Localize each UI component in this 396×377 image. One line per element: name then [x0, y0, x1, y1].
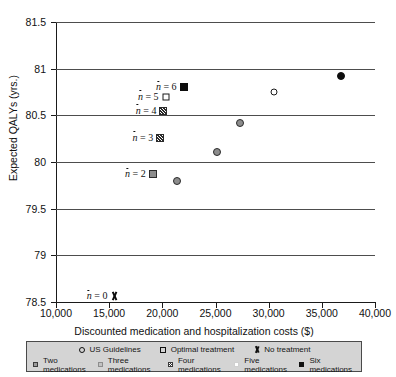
gridline — [56, 209, 375, 210]
legend-row-medications: Two medicationsThree medicationsFour med… — [27, 357, 361, 372]
legend-label: Two medications — [43, 356, 94, 374]
legend-label: US Guidelines — [90, 345, 141, 354]
legend-swatch-hatch-square-icon — [166, 360, 175, 369]
legend-item[interactable]: Four medications — [166, 356, 230, 374]
legend-swatch-cross-icon — [252, 345, 261, 354]
data-point-five-medications — [162, 93, 169, 100]
legend-label: Optimal treatment — [171, 345, 235, 354]
legend-label: No treatment — [264, 345, 310, 354]
gridline — [56, 22, 375, 23]
data-point-no-treatment — [110, 292, 119, 301]
legend-label: Five medications — [244, 356, 295, 374]
data-point-four-medications — [159, 107, 167, 115]
data-point-optimal-treatment — [337, 72, 345, 80]
legend-item[interactable]: No treatment — [252, 345, 310, 354]
x-tick-label: 35,000 — [292, 308, 352, 319]
legend-swatch-open-square-icon — [159, 345, 168, 354]
point-annotation: n = 6 — [156, 82, 177, 92]
y-tick-label: 79 — [0, 250, 46, 261]
data-point-us-guidelines-upper — [236, 119, 244, 127]
chart-legend: US GuidelinesOptimal treatmentNo treatme… — [26, 341, 362, 372]
x-axis-title: Discounted medication and hospitalizatio… — [0, 325, 388, 337]
gridline — [56, 115, 375, 116]
legend-item[interactable]: Two medications — [31, 356, 94, 374]
y-tick-label: 79.5 — [0, 204, 46, 215]
point-annotation: n = 0 — [87, 291, 108, 301]
point-annotation: n = 2 — [125, 169, 146, 179]
legend-item[interactable]: Five medications — [232, 356, 295, 374]
x-tick-label: 15,000 — [79, 308, 139, 319]
legend-label: Four medications — [178, 356, 230, 374]
gridline — [56, 162, 375, 163]
legend-swatch-grey-square-icon — [31, 360, 40, 369]
legend-item[interactable]: Three medications — [96, 356, 164, 374]
data-point-two-medications — [149, 170, 157, 178]
point-annotation: n = 3 — [133, 133, 154, 143]
plot-area: n = 6n = 5n = 4n = 3n = 2n = 0 — [56, 22, 375, 302]
legend-item[interactable]: Optimal treatment — [159, 345, 235, 354]
y-axis-title: Expected QALYs (yrs.) — [7, 63, 19, 193]
legend-swatch-open-circle-icon — [78, 345, 87, 354]
legend-item[interactable]: Six medications — [297, 356, 357, 374]
data-point-three-medications — [156, 134, 164, 142]
gridline — [56, 255, 375, 256]
x-tick-label: 40,000 — [345, 308, 396, 319]
data-points-layer — [56, 22, 375, 31]
point-annotation: n = 5 — [138, 92, 159, 102]
x-tick-label: 25,000 — [186, 308, 246, 319]
legend-swatch-black-square-icon — [297, 360, 306, 369]
data-point-six-medications — [180, 83, 188, 91]
data-point-us-guidelines-low — [173, 177, 181, 185]
gridline — [56, 69, 375, 70]
legend-item[interactable]: US Guidelines — [78, 345, 141, 354]
x-tick-label: 10,000 — [26, 308, 86, 319]
x-tick-label: 20,000 — [132, 308, 192, 319]
point-annotation: n = 4 — [136, 106, 157, 116]
data-point-us-guidelines-open — [270, 89, 277, 96]
legend-label: Six medications — [309, 356, 357, 374]
legend-swatch-white-square-icon — [232, 360, 241, 369]
y-tick-label: 78.5 — [0, 297, 46, 308]
data-point-us-guidelines-mid — [213, 148, 221, 156]
y-tick-label: 81.5 — [0, 17, 46, 28]
legend-label: Three medications — [108, 356, 164, 374]
x-tick-label: 30,000 — [239, 308, 299, 319]
legend-swatch-light-grey-square-icon — [96, 360, 105, 369]
